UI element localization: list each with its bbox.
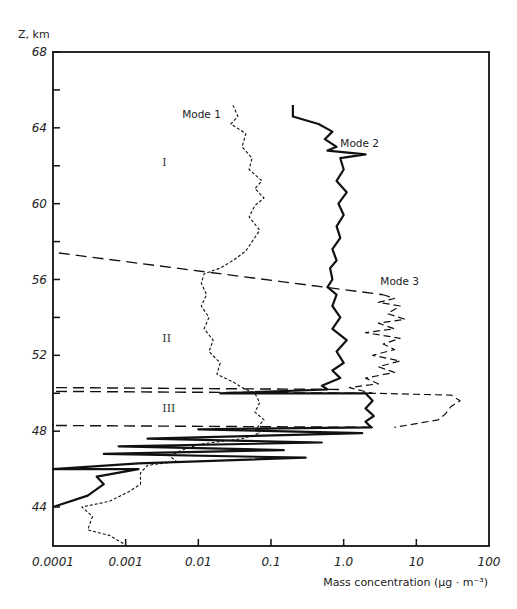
axis-ticks: 0.00010.0010.010.11.01010044485256606468 [32, 45, 501, 569]
mass-concentration-profile-chart: 0.00010.0010.010.11.01010044485256606468… [0, 0, 517, 609]
y-axis-title: Z, km [18, 28, 50, 41]
region-boundary-line [59, 253, 383, 295]
x-tick-label: 1.0 [334, 555, 353, 569]
y-tick-label: 60 [32, 197, 48, 211]
y-tick-label: 48 [32, 424, 48, 438]
annotations: Mode 1Mode 2Mode 3IIIIII [162, 108, 419, 415]
x-tick-label: 0.01 [185, 555, 212, 569]
x-axis-title: Mass concentration (μg · m⁻³) [323, 576, 488, 589]
y-tick-label: 52 [32, 348, 47, 362]
series-mode-2 [53, 105, 374, 507]
x-tick-label: 0.0001 [32, 555, 74, 569]
region-label: II [162, 332, 171, 345]
series-mode-1 [82, 105, 264, 545]
x-tick-label: 100 [478, 555, 501, 569]
region-boundary-line [56, 388, 344, 390]
series-label: Mode 1 [182, 108, 221, 120]
region-boundaries [56, 253, 383, 427]
y-tick-label: 44 [32, 500, 47, 514]
series-label: Mode 2 [340, 137, 379, 149]
region-label: III [162, 402, 175, 415]
region-label: I [162, 156, 166, 169]
data-series [53, 105, 460, 545]
y-tick-label: 68 [32, 45, 48, 59]
y-tick-label: 64 [32, 121, 47, 135]
x-tick-label: 0.001 [108, 555, 142, 569]
series-label: Mode 3 [380, 275, 419, 287]
y-tick-label: 56 [32, 273, 48, 287]
x-tick-label: 10 [409, 555, 425, 569]
x-tick-label: 0.1 [261, 555, 280, 569]
